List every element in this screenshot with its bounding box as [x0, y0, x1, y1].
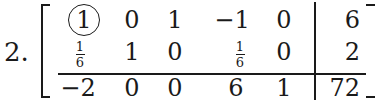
matrix-cell-fraction: 1 6: [220, 40, 260, 69]
matrix-cell: 0: [155, 38, 195, 66]
matrix-cell: 0: [112, 6, 152, 34]
matrix-cell: 1: [264, 74, 304, 102]
matrix-cell: −2: [58, 74, 98, 102]
fraction-denominator: 6: [220, 56, 260, 69]
matrix-cell: 0: [112, 74, 152, 102]
matrix-cell: 1: [112, 38, 152, 66]
matrix-cell: 6: [216, 74, 256, 102]
augmented-column-divider: [314, 2, 316, 100]
pivot-circle: 1: [68, 4, 100, 36]
matrix-cell: 0: [264, 6, 304, 34]
matrix-cell: −1: [212, 6, 252, 34]
matrix-cell: 1: [155, 6, 195, 34]
left-bracket: [41, 4, 50, 98]
matrix-cell: 0: [264, 38, 304, 66]
right-bracket: [366, 4, 375, 98]
rhs-cell: 6: [320, 6, 360, 34]
fraction-numerator: 1: [60, 40, 100, 53]
fraction-numerator: 1: [220, 40, 260, 53]
matrix-cell: 0: [155, 74, 195, 102]
fraction-denominator: 6: [60, 56, 100, 69]
rhs-cell: 2: [320, 38, 360, 66]
problem-label: 2.: [4, 36, 29, 68]
rhs-cell: 72: [320, 74, 360, 102]
matrix-cell-fraction: 1 6: [60, 40, 100, 69]
matrix-cell-pivot: 1: [64, 6, 104, 36]
